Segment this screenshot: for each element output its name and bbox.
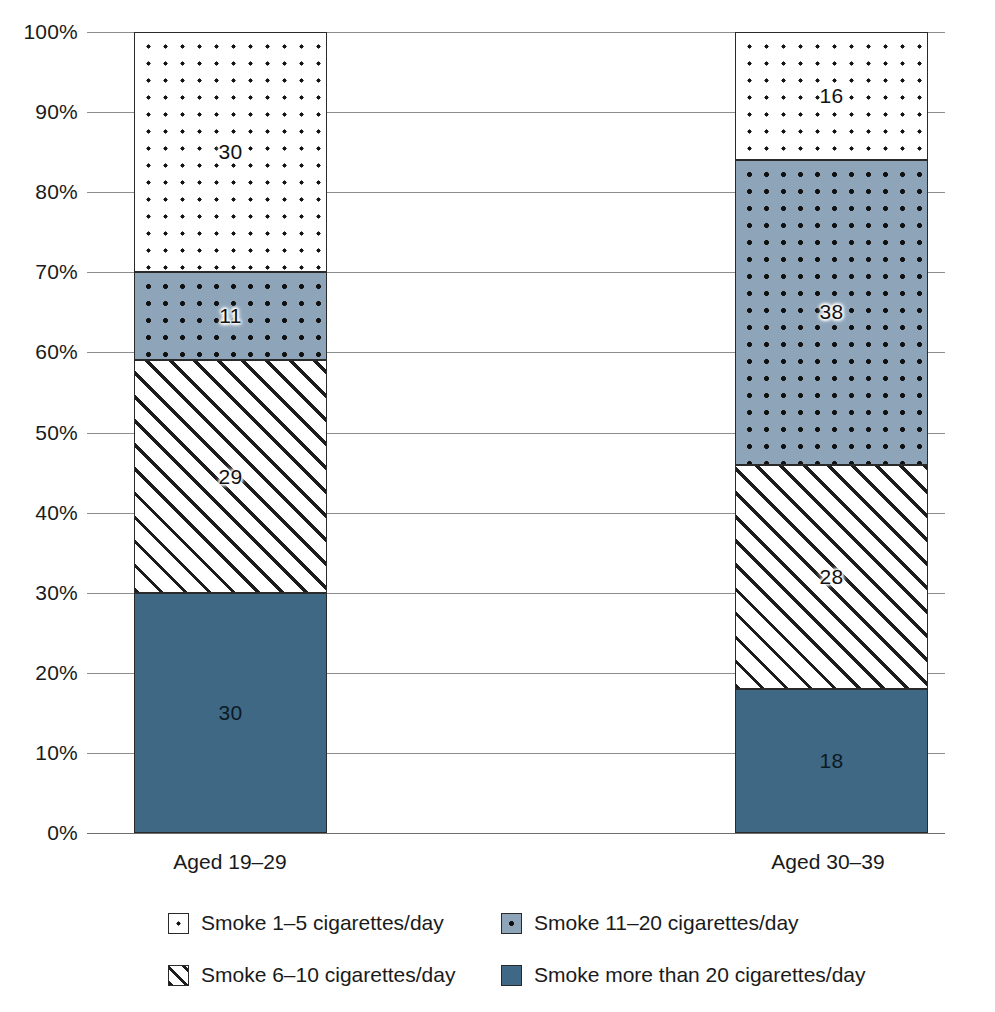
y-tick-label-40: 40% [6,501,78,525]
y-tick-label-100: 100% [6,20,78,44]
bar-1-segment-smoke-1-5[interactable]: 16 [735,32,928,160]
bar-0-segment-value-smoke-11-20: 11 [219,304,242,328]
y-tick-label-10: 10% [6,741,78,765]
legend-label-smoke-1-5: Smoke 1–5 cigarettes/day [201,911,444,935]
bar-0-segment-value-smoke-6-10: 29 [218,465,242,489]
y-tick-label-90: 90% [6,100,78,124]
y-tick-label-50: 50% [6,421,78,445]
bar-0-segment-smoke-11-20[interactable]: 11 [134,272,327,360]
y-tick-label-60: 60% [6,340,78,364]
bar-1-segment-value-smoke-1-5: 16 [819,84,843,108]
y-tick-label-80: 80% [6,180,78,204]
bar-0-segment-smoke-1-5[interactable]: 30 [134,32,327,272]
stacked-bar-chart: 100% 90% 80% 70% 60% 50% 40% 30% 20% 10%… [0,0,995,1012]
bar-1-segment-smoke-11-20[interactable]: 38 [735,160,928,464]
gridline-0-baseline [87,833,945,834]
x-axis-label-aged-19-29: Aged 19–29 [100,850,360,874]
y-tick-label-0: 0% [6,821,78,845]
bar-1-segment-value-smoke-11-20: 38 [819,300,843,324]
legend-swatch-smoke-1-5-icon [168,913,189,934]
bar-1-segment-value-smoke-more-than-20: 18 [819,749,843,773]
bar-1-segment-value-smoke-6-10: 28 [819,565,843,589]
y-tick-label-20: 20% [6,661,78,685]
bar-1-segment-smoke-more-than-20[interactable]: 18 [735,689,928,833]
legend-item-smoke-1-5[interactable]: Smoke 1–5 cigarettes/day [168,903,493,943]
bar-0-segment-value-smoke-1-5: 30 [218,140,242,164]
legend: Smoke 1–5 cigarettes/day Smoke 11–20 cig… [168,903,928,995]
legend-swatch-smoke-11-20-icon [501,913,522,934]
legend-label-smoke-6-10: Smoke 6–10 cigarettes/day [201,963,455,987]
plot-area: 30 11 29 30 16 38 28 18 [87,32,945,833]
legend-item-smoke-more-than-20[interactable]: Smoke more than 20 cigarettes/day [501,955,928,995]
bar-0-segment-smoke-more-than-20[interactable]: 30 [134,593,327,833]
bar-0-segment-smoke-6-10[interactable]: 29 [134,360,327,592]
legend-label-smoke-11-20: Smoke 11–20 cigarettes/day [534,911,799,935]
bar-0-segment-value-smoke-more-than-20: 30 [218,701,242,725]
legend-swatch-smoke-6-10-icon [168,965,189,986]
bar-1-segment-smoke-6-10[interactable]: 28 [735,465,928,689]
legend-label-smoke-more-than-20: Smoke more than 20 cigarettes/day [534,963,866,987]
legend-item-smoke-11-20[interactable]: Smoke 11–20 cigarettes/day [501,903,928,943]
y-tick-label-70: 70% [6,260,78,284]
legend-swatch-smoke-more-than-20-icon [501,965,522,986]
y-tick-label-30: 30% [6,581,78,605]
bar-aged-30-39[interactable]: 16 38 28 18 [735,32,928,833]
legend-item-smoke-6-10[interactable]: Smoke 6–10 cigarettes/day [168,955,493,995]
y-axis: 100% 90% 80% 70% 60% 50% 40% 30% 20% 10%… [0,32,78,833]
x-axis-label-aged-30-39: Aged 30–39 [698,850,958,874]
bar-aged-19-29[interactable]: 30 11 29 30 [134,32,327,833]
